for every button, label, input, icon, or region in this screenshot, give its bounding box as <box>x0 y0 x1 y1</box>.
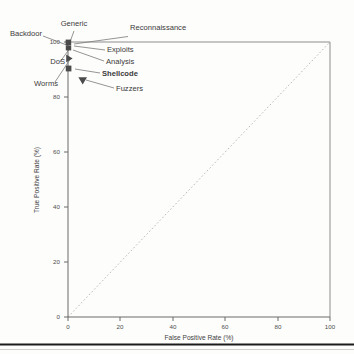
leader-analysis <box>73 50 104 61</box>
y-ticklabel-20: 20 <box>53 258 60 265</box>
marker-generic-backdoor-reconnaissance <box>66 40 72 46</box>
leader-exploits <box>74 46 105 50</box>
marker-worms-shellcode <box>66 66 72 72</box>
leader-fuzzers <box>86 80 114 88</box>
marker-exploits <box>66 45 71 50</box>
x-ticklabel-100: 100 <box>325 323 336 330</box>
leader-shellcode <box>75 69 100 73</box>
y-ticklabel-0: 0 <box>57 313 61 320</box>
roc-chart: 0 20 40 60 80 100 0 20 40 60 80 100 Fals… <box>0 0 354 354</box>
x-ticklabel-40: 40 <box>170 323 177 330</box>
annotation-worms: Worms <box>34 79 58 88</box>
figure-page: 0 20 40 60 80 100 0 20 40 60 80 100 Fals… <box>0 0 354 354</box>
x-ticklabel-80: 80 <box>275 323 282 330</box>
annotation-reconnaissance: Reconnaissance <box>130 23 186 32</box>
y-ticklabel-60: 60 <box>53 148 60 155</box>
annotation-generic: Generic <box>61 19 88 28</box>
leader-generic <box>71 31 75 41</box>
annotation-fuzzers: Fuzzers <box>116 84 143 93</box>
x-ticklabel-20: 20 <box>117 323 124 330</box>
annotation-exploits: Exploits <box>107 45 134 54</box>
leader-reconnaissance <box>74 37 128 45</box>
chance-diagonal-line <box>68 42 330 317</box>
roc-plot-svg: 0 20 40 60 80 100 0 20 40 60 80 100 Fals… <box>0 0 354 354</box>
annotation-dos: DoS <box>50 57 65 66</box>
marker-fuzzers <box>78 77 87 84</box>
annotation-shellcode: Shellcode <box>102 69 138 78</box>
y-axis-title: True Positive Rate (%) <box>33 147 41 213</box>
x-ticklabel-0: 0 <box>66 323 70 330</box>
x-axis-title: False Positive Rate (%) <box>165 334 234 342</box>
x-ticklabel-60: 60 <box>222 323 229 330</box>
y-ticklabel-80: 80 <box>53 93 60 100</box>
annotation-backdoor: Backdoor <box>10 29 43 38</box>
y-ticklabel-40: 40 <box>53 203 60 210</box>
annotation-analysis: Analysis <box>106 57 134 66</box>
